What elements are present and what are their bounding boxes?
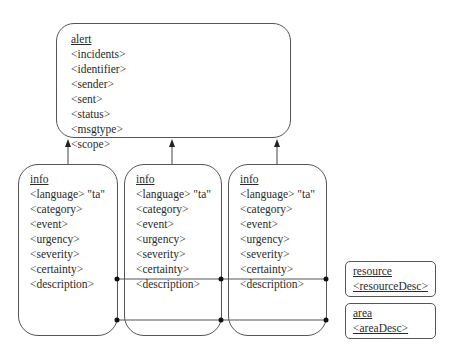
info-title: info <box>240 172 326 187</box>
resource-field: <resourceDesc> <box>353 279 435 294</box>
info-field: <urgency> <box>30 232 117 247</box>
info-field: <certainty> <box>136 262 221 277</box>
info-title: info <box>30 172 117 187</box>
area-field: <areaDesc> <box>353 321 435 336</box>
info-field: <severity> <box>30 247 117 262</box>
info-field: <event> <box>240 217 326 232</box>
info-field: <language> "ta" <box>136 187 221 202</box>
alert-field: <identifier> <box>71 62 290 77</box>
info-field: <language> "ta" <box>240 187 326 202</box>
info-field: <severity> <box>240 247 326 262</box>
alert-box: alert <incidents> <identifier> <sender> … <box>56 23 291 138</box>
info-box-2: info <language> "ta" <category> <event> … <box>124 164 222 336</box>
info-field: <language> "ta" <box>30 187 117 202</box>
alert-field: <status> <box>71 107 290 122</box>
resource-box: resource <resourceDesc> <box>345 261 436 297</box>
alert-field: <sender> <box>71 77 290 92</box>
info-field: <urgency> <box>136 232 221 247</box>
info-box-1: info <language> "ta" <category> <event> … <box>18 164 118 336</box>
resource-title: resource <box>353 264 435 279</box>
info-field: <category> <box>30 202 117 217</box>
info-field: <certainty> <box>30 262 117 277</box>
info-field: <description> <box>136 277 221 292</box>
alert-field: <msgtype> <box>71 122 290 137</box>
info-box-3: info <language> "ta" <category> <event> … <box>228 164 327 336</box>
info-field: <category> <box>136 202 221 217</box>
area-title: area <box>353 306 435 321</box>
alert-title: alert <box>71 32 290 47</box>
alert-field: <incidents> <box>71 47 290 62</box>
info-field: <category> <box>240 202 326 217</box>
info-field: <severity> <box>136 247 221 262</box>
info-field: <description> <box>240 277 326 292</box>
info-title: info <box>136 172 221 187</box>
alert-field: <sent> <box>71 92 290 107</box>
alert-field: <scope> <box>71 137 290 152</box>
info-field: <urgency> <box>240 232 326 247</box>
info-field: <event> <box>30 217 117 232</box>
info-field: <description> <box>30 277 117 292</box>
info-field: <certainty> <box>240 262 326 277</box>
info-field: <event> <box>136 217 221 232</box>
area-box: area <areaDesc> <box>345 303 436 339</box>
